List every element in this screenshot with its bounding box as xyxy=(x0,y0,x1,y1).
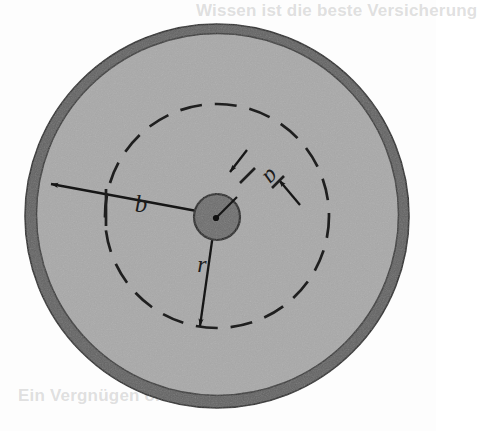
center-point xyxy=(213,215,219,221)
label-b: b xyxy=(135,190,148,217)
label-r: r xyxy=(197,251,207,277)
